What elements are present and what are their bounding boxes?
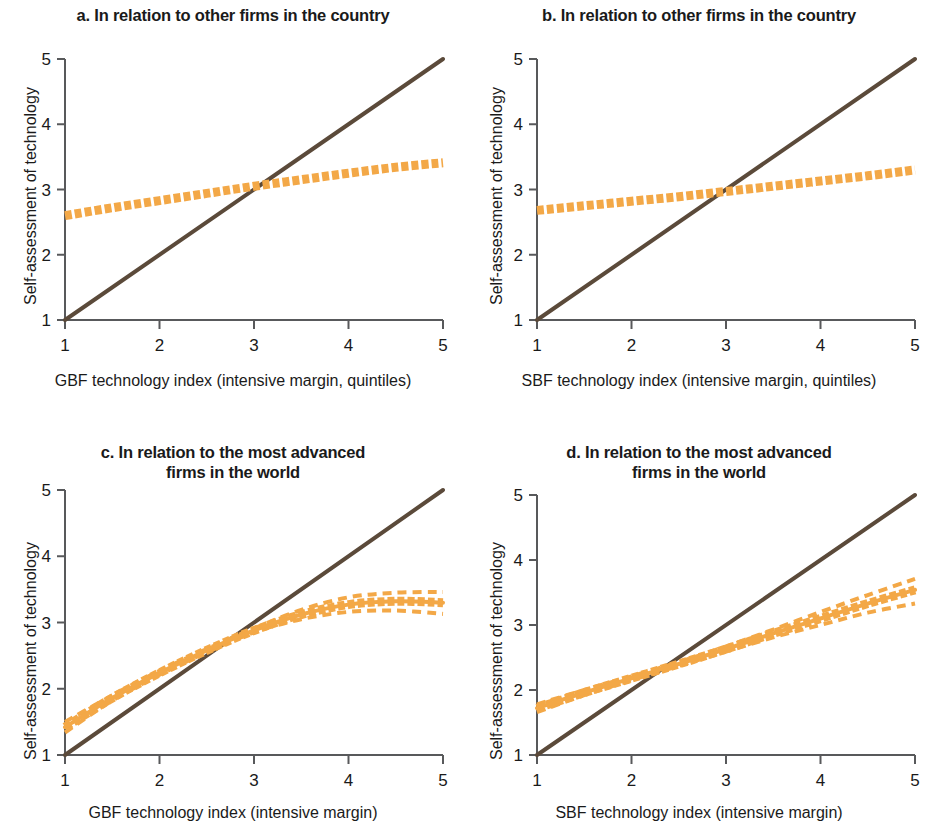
figure-root: a. In relation to other firms in the cou…	[0, 0, 932, 839]
y-tick-label: 1	[42, 746, 51, 765]
x-tick-label: 2	[155, 771, 164, 790]
x-tick-label: 5	[438, 771, 447, 790]
x-tick-label: 4	[816, 771, 825, 790]
x-tick-label: 3	[249, 336, 258, 355]
x-tick-label: 4	[344, 771, 353, 790]
series-line	[65, 490, 443, 755]
x-tick-label: 1	[60, 771, 69, 790]
panel-d-xlabel: SBF technology index (intensive margin)	[466, 804, 932, 822]
panel-a-plot: 1234512345	[0, 0, 466, 400]
panel-c: c. In relation to the most advanced firm…	[0, 420, 466, 839]
panel-c-plot: 1234512345	[0, 420, 466, 820]
y-tick-label: 2	[42, 680, 51, 699]
x-tick-label: 5	[910, 771, 919, 790]
y-tick-label: 4	[42, 547, 51, 566]
panel-d: d. In relation to the most advanced firm…	[466, 420, 932, 839]
y-tick-label: 4	[42, 115, 51, 134]
x-tick-label: 2	[627, 336, 636, 355]
y-tick-label: 4	[514, 551, 523, 570]
y-tick-label: 3	[42, 181, 51, 200]
y-tick-label: 3	[514, 616, 523, 635]
panel-d-plot: 1234512345	[466, 420, 932, 820]
series-fit-core	[537, 590, 915, 708]
x-tick-label: 2	[155, 336, 164, 355]
y-tick-label: 2	[514, 681, 523, 700]
y-tick-label: 4	[514, 115, 523, 134]
series-line	[537, 604, 915, 713]
x-tick-label: 5	[438, 336, 447, 355]
x-tick-label: 3	[721, 336, 730, 355]
y-tick-label: 1	[514, 311, 523, 330]
panel-c-xlabel: GBF technology index (intensive margin)	[0, 804, 466, 822]
series-line	[537, 495, 915, 755]
y-tick-label: 5	[42, 50, 51, 69]
y-tick-label: 5	[42, 481, 51, 500]
panel-a-xlabel: GBF technology index (intensive margin, …	[0, 372, 466, 390]
y-tick-label: 5	[514, 486, 523, 505]
y-tick-label: 1	[42, 311, 51, 330]
x-tick-label: 1	[532, 336, 541, 355]
panel-b: b. In relation to other firms in the cou…	[466, 0, 932, 419]
x-tick-label: 2	[627, 771, 636, 790]
series-line	[537, 170, 915, 210]
x-tick-label: 5	[910, 336, 919, 355]
y-tick-label: 5	[514, 50, 523, 69]
series-line	[65, 163, 443, 216]
x-tick-label: 3	[249, 771, 258, 790]
panel-b-xlabel: SBF technology index (intensive margin, …	[466, 372, 932, 390]
y-tick-label: 3	[514, 181, 523, 200]
y-tick-label: 3	[42, 614, 51, 633]
x-tick-label: 1	[532, 771, 541, 790]
y-tick-label: 2	[42, 246, 51, 265]
y-tick-label: 2	[514, 246, 523, 265]
x-tick-label: 3	[721, 771, 730, 790]
x-tick-label: 4	[344, 336, 353, 355]
panel-a: a. In relation to other firms in the cou…	[0, 0, 466, 419]
x-tick-label: 1	[60, 336, 69, 355]
x-tick-label: 4	[816, 336, 825, 355]
panel-b-plot: 1234512345	[466, 0, 932, 400]
y-tick-label: 1	[514, 746, 523, 765]
